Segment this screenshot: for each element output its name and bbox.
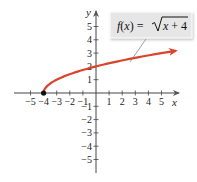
x-tick-label: 5 bbox=[159, 96, 164, 107]
y-tick-label: −3 bbox=[81, 127, 92, 138]
x-axis-label: x bbox=[171, 96, 177, 108]
y-tick-label: −2 bbox=[81, 114, 92, 125]
y-axis-label: y bbox=[85, 6, 91, 18]
x-tick-label: −4 bbox=[38, 96, 49, 107]
y-tick-label: 5 bbox=[87, 21, 92, 32]
function-label-radicand: x + 4 bbox=[162, 19, 187, 33]
function-label-callout: f(x) = x + 4 bbox=[110, 12, 192, 38]
y-tick-label: −5 bbox=[81, 154, 92, 165]
y-tick-label: 2 bbox=[87, 61, 92, 72]
y-tick-label: 1 bbox=[87, 74, 92, 85]
x-tick-label: 2 bbox=[120, 96, 125, 107]
start-point bbox=[41, 90, 46, 95]
y-tick-label: −1 bbox=[81, 101, 92, 112]
x-tick-label: 3 bbox=[133, 96, 138, 107]
function-graph: −5−4−3−2−112345 −5−4−3−2−112345 x y f(x)… bbox=[0, 0, 197, 182]
x-tick-label: 4 bbox=[146, 96, 151, 107]
function-label-lhs: f(x) = bbox=[117, 19, 144, 33]
y-tick-label: 4 bbox=[87, 34, 92, 45]
x-tick-label: 1 bbox=[107, 96, 112, 107]
x-tick-label: −3 bbox=[51, 96, 62, 107]
x-tick-label: −5 bbox=[25, 96, 36, 107]
x-tick-label: −2 bbox=[64, 96, 75, 107]
function-curve bbox=[44, 51, 176, 93]
y-tick-label: −4 bbox=[81, 141, 92, 152]
y-tick-label: 3 bbox=[87, 48, 92, 59]
